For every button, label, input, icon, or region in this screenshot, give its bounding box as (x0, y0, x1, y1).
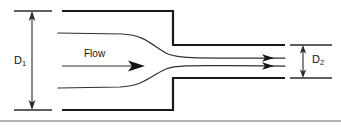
d1-label: D (14, 54, 22, 66)
d2-label: D (312, 53, 320, 65)
upstream-top-wall (62, 11, 285, 45)
streamlines (58, 33, 285, 88)
flow-label: Flow (84, 48, 106, 59)
contraction-diagram: Flow D 1 D 2 (0, 0, 341, 127)
d2-label-subscript: 2 (320, 58, 324, 67)
dimension-d1: D 1 (14, 11, 52, 110)
dimension-d2: D 2 (290, 45, 332, 78)
exit-stream-arrowheads (262, 54, 274, 70)
flow-indicator: Flow (62, 48, 145, 72)
d1-label-subscript: 1 (22, 59, 26, 68)
upstream-bottom-wall (62, 78, 285, 110)
lower-streamline (58, 66, 285, 88)
diagram-canvas: Flow D 1 D 2 (0, 0, 341, 127)
upstream-pipe-walls (62, 11, 285, 110)
